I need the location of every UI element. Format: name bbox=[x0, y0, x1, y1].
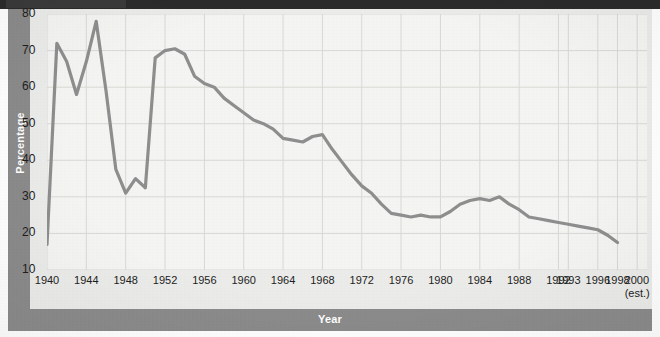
y-tick-labels: 8070605040302010 bbox=[22, 14, 46, 270]
x-axis-title: Year bbox=[8, 313, 652, 325]
y-tick-label: 70 bbox=[22, 44, 46, 56]
line-chart-svg bbox=[47, 14, 647, 270]
gridlines bbox=[47, 14, 647, 270]
x-tick-label: 1968 bbox=[310, 274, 334, 287]
x-tick-label: 1956 bbox=[192, 274, 216, 287]
x-tick-label: 1940 bbox=[35, 274, 59, 287]
y-tick-label: 20 bbox=[22, 226, 46, 238]
x-tick-sublabel: (est.) bbox=[625, 287, 650, 300]
x-tick-label: 1948 bbox=[113, 274, 137, 287]
x-tick-labels: 1940194419481952195619601964196819721976… bbox=[47, 274, 652, 308]
x-tick-label: 1993 bbox=[556, 274, 580, 287]
chart-figure: Percentage Year 8070605040302010 1940194… bbox=[0, 0, 660, 337]
plot-area bbox=[47, 14, 647, 270]
x-tick-label: 1972 bbox=[350, 274, 374, 287]
x-tick-label: 1964 bbox=[271, 274, 295, 287]
x-tick-label: 1980 bbox=[428, 274, 452, 287]
x-tick-label: 1976 bbox=[389, 274, 413, 287]
x-axis-band: Year bbox=[8, 309, 652, 331]
x-tick-label: 1960 bbox=[231, 274, 255, 287]
x-tick-label: 1984 bbox=[468, 274, 492, 287]
data-series-line bbox=[47, 21, 617, 244]
cropped-header-bar bbox=[0, 0, 660, 9]
y-tick-label: 60 bbox=[22, 80, 46, 92]
x-tick-label: 2000(est.) bbox=[625, 274, 650, 299]
y-tick-label: 80 bbox=[22, 7, 46, 19]
y-tick-label: 50 bbox=[22, 117, 46, 129]
y-tick-label: 30 bbox=[22, 190, 46, 202]
x-tick-label: 1944 bbox=[74, 274, 98, 287]
x-tick-label: 1988 bbox=[507, 274, 531, 287]
x-tick-label: 1952 bbox=[153, 274, 177, 287]
y-tick-label: 40 bbox=[22, 153, 46, 165]
